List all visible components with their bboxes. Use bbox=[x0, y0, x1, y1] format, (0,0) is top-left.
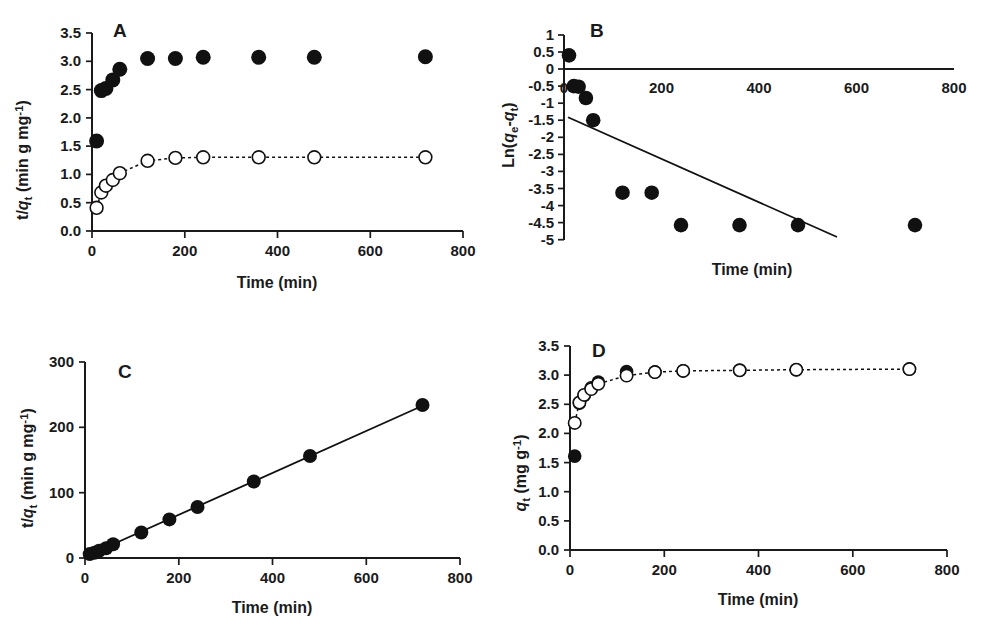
panel-a-xtick-3: 600 bbox=[358, 242, 383, 259]
data-point bbox=[734, 364, 746, 376]
panel-b-ytick-7: -2.5 bbox=[528, 145, 554, 162]
panel-a-ytick-6: 3.0 bbox=[60, 52, 81, 69]
panel-c-ylabel: t/qt (min g mg-1) bbox=[18, 408, 39, 528]
data-point bbox=[903, 363, 915, 375]
data-point bbox=[162, 512, 176, 526]
panel-c-plot: C t/qt (min g mg-1) 0 100 200 300 bbox=[0, 313, 492, 626]
panel-c-ytick-2: 200 bbox=[49, 418, 74, 435]
data-point bbox=[168, 51, 183, 66]
panel-a-plot: A t/qt (min g mg-1) 0.0 0.5 1.0 1.5 2 bbox=[0, 0, 492, 313]
panel-c-ytick-3: 300 bbox=[49, 353, 74, 370]
data-point bbox=[790, 364, 802, 376]
data-point bbox=[89, 134, 104, 149]
panel-c-ytick-1: 100 bbox=[49, 484, 74, 501]
data-point bbox=[247, 475, 261, 489]
panel-c-y-ticks: 0 100 200 300 bbox=[49, 353, 85, 566]
data-point bbox=[308, 151, 321, 164]
panel-b-xlabel: Time (min) bbox=[712, 261, 793, 278]
panel-b-y-ticks: 1 0.5 0 -0.5 -1 -1.5 -2 -2.5 -3 -3.5 -4 … bbox=[528, 26, 564, 248]
data-point bbox=[252, 151, 265, 164]
data-point bbox=[141, 154, 154, 167]
data-point bbox=[620, 369, 632, 381]
panel-c-xtick-0: 0 bbox=[81, 569, 89, 586]
panel-a-xtick-2: 400 bbox=[265, 242, 290, 259]
panel-b-filled-series bbox=[562, 48, 923, 232]
panel-b-ytick-0: 1 bbox=[546, 26, 554, 43]
data-point bbox=[649, 366, 661, 378]
panel-c-xtick-1: 200 bbox=[166, 569, 191, 586]
panel-c-ytick-0: 0 bbox=[66, 549, 74, 566]
panel-d-ytick-3: 1.5 bbox=[538, 454, 559, 471]
panel-c-xtick-3: 600 bbox=[354, 569, 379, 586]
panel-d-ytick-0: 0.0 bbox=[538, 541, 559, 558]
panel-d-xtick-2: 400 bbox=[746, 561, 771, 578]
panel-d-open-series bbox=[569, 363, 916, 429]
panel-a-ytick-7: 3.5 bbox=[60, 24, 81, 41]
panel-b-ytick-1: 0.5 bbox=[533, 43, 554, 60]
panel-c-filled-series bbox=[83, 398, 430, 561]
data-point bbox=[197, 151, 210, 164]
panel-b-xtick-1: 200 bbox=[649, 79, 674, 96]
data-point bbox=[644, 185, 659, 200]
panel-d-ytick-7: 3.5 bbox=[538, 337, 559, 354]
panel-d-y-ticks: 0.0 0.5 1.0 1.5 2.0 2.5 3.0 3.5 bbox=[538, 337, 570, 558]
data-point bbox=[677, 365, 689, 377]
panel-b-x-ticks: 0 200 400 600 800 bbox=[560, 79, 967, 96]
data-point bbox=[196, 50, 211, 65]
data-point bbox=[140, 51, 155, 66]
panel-a-ylabel: t/qt (min g mg-1) bbox=[13, 100, 34, 220]
panel-d-xtick-3: 600 bbox=[840, 561, 865, 578]
panel-d: D qt (mg g-1) 0.0 0.5 1.0 1.5 2.0 2.5 3.… bbox=[492, 313, 983, 626]
data-point bbox=[307, 50, 322, 65]
panel-d-xlabel: Time (min) bbox=[718, 591, 799, 608]
panel-b-ytick-12: -5 bbox=[541, 231, 554, 248]
figure-canvas: A t/qt (min g mg-1) 0.0 0.5 1.0 1.5 2 bbox=[0, 0, 983, 626]
panel-d-ytick-4: 2.0 bbox=[538, 424, 559, 441]
panel-b-ylabel: Ln(qe-qt) bbox=[500, 102, 520, 167]
panel-a: A t/qt (min g mg-1) 0.0 0.5 1.0 1.5 2 bbox=[0, 0, 492, 313]
panel-b-ytick-3: -0.5 bbox=[528, 77, 554, 94]
data-point bbox=[418, 49, 433, 64]
panel-d-ytick-5: 2.5 bbox=[538, 395, 559, 412]
data-point bbox=[191, 500, 205, 514]
panel-a-ytick-4: 2.0 bbox=[60, 109, 81, 126]
panel-c-xlabel: Time (min) bbox=[232, 599, 313, 616]
panel-d-letter: D bbox=[592, 340, 606, 361]
data-point bbox=[90, 201, 103, 214]
panel-b-ytick-5: -1.5 bbox=[528, 111, 554, 128]
data-point bbox=[568, 449, 582, 463]
data-point bbox=[674, 218, 689, 233]
panel-b-ytick-11: -4.5 bbox=[528, 214, 554, 231]
panel-d-ylabel: qt (mg g-1) bbox=[511, 434, 532, 511]
panel-c-xtick-4: 800 bbox=[447, 569, 472, 586]
panel-c-letter: C bbox=[118, 361, 132, 382]
data-point bbox=[303, 449, 317, 463]
panel-b-xtick-3: 600 bbox=[844, 79, 869, 96]
panel-d-xtick-4: 800 bbox=[934, 561, 959, 578]
panel-d-x-ticks: 0 200 400 600 800 bbox=[566, 550, 960, 578]
panel-a-xlabel: Time (min) bbox=[237, 274, 318, 291]
panel-b-ytick-9: -3.5 bbox=[528, 180, 554, 197]
panel-c-x-ticks: 0 200 400 600 800 bbox=[81, 558, 473, 586]
panel-b-ytick-6: -2 bbox=[541, 128, 554, 145]
panel-a-ytick-5: 2.5 bbox=[60, 81, 81, 98]
data-point bbox=[419, 151, 432, 164]
panel-a-letter: A bbox=[113, 20, 127, 41]
data-point bbox=[592, 378, 604, 390]
data-point bbox=[615, 185, 630, 200]
panel-d-ytick-1: 0.5 bbox=[538, 512, 559, 529]
panel-a-x-ticks: 0 200 400 600 800 bbox=[88, 231, 476, 259]
panel-a-ytick-2: 1.0 bbox=[60, 165, 81, 182]
panel-a-xtick-0: 0 bbox=[88, 242, 96, 259]
panel-b-xtick-4: 800 bbox=[941, 79, 966, 96]
data-point bbox=[586, 113, 601, 128]
data-point bbox=[112, 62, 127, 77]
panel-d-plot: D qt (mg g-1) 0.0 0.5 1.0 1.5 2.0 2.5 3.… bbox=[492, 313, 983, 626]
panel-b-letter: B bbox=[590, 20, 604, 41]
data-point bbox=[732, 218, 747, 233]
panel-a-ytick-3: 1.5 bbox=[60, 137, 81, 154]
panel-d-xtick-1: 200 bbox=[652, 561, 677, 578]
panel-a-y-ticks: 0.0 0.5 1.0 1.5 2.0 2.5 3.0 3.5 bbox=[60, 24, 92, 239]
panel-d-ytick-6: 3.0 bbox=[538, 366, 559, 383]
panel-d-ytick-2: 1.0 bbox=[538, 483, 559, 500]
